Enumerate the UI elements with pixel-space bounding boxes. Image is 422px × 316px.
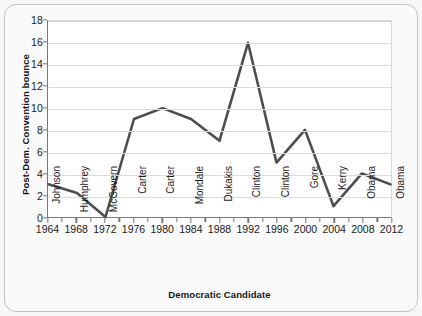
y-tick-label: 12 xyxy=(3,81,43,92)
gridline xyxy=(48,65,391,66)
x-tick-mark-minor xyxy=(176,218,177,222)
y-tick-label: 16 xyxy=(3,37,43,48)
y-tick-label: 18 xyxy=(3,15,43,26)
x-tick-candidate-label: Obama xyxy=(396,166,406,240)
x-tick-mark-minor xyxy=(262,218,263,222)
x-tick-mark-minor xyxy=(348,218,349,222)
x-tick-mark-minor xyxy=(90,218,91,222)
gridline xyxy=(48,153,391,154)
chart-figure: Post-Dem. Convention bounce 024681012141… xyxy=(0,0,422,316)
x-axis-title: Democratic Candidate xyxy=(47,289,392,300)
gridline xyxy=(48,109,391,110)
gridline xyxy=(48,21,391,22)
y-tick-label: 6 xyxy=(3,147,43,158)
y-tick-label: 0 xyxy=(3,213,43,224)
y-tick-label: 10 xyxy=(3,103,43,114)
y-tick-label: 14 xyxy=(3,59,43,70)
gridline xyxy=(48,131,391,132)
gridline xyxy=(48,43,391,44)
y-tick-label: 8 xyxy=(3,125,43,136)
gridline xyxy=(48,87,391,88)
y-axis-ticks: 024681012141618 xyxy=(0,20,43,218)
y-tick-label: 2 xyxy=(3,191,43,202)
y-tick-label: 4 xyxy=(3,169,43,180)
